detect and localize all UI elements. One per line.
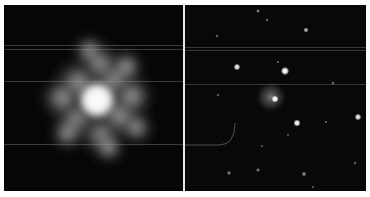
star (293, 119, 300, 126)
arc-artifact (185, 123, 235, 145)
star (260, 144, 263, 147)
star (287, 134, 290, 137)
star (256, 168, 260, 172)
right-image-panel-star-field (185, 5, 366, 191)
star (303, 27, 308, 32)
star (355, 114, 362, 121)
star (234, 64, 241, 71)
star-field (185, 5, 366, 191)
star (311, 185, 314, 188)
star (265, 18, 268, 21)
star (216, 93, 219, 96)
star (281, 67, 289, 75)
star (324, 120, 327, 123)
star (227, 171, 231, 175)
star (302, 172, 307, 177)
star (215, 34, 218, 37)
star (276, 60, 279, 63)
nebulous-halo (255, 81, 287, 113)
star (271, 95, 278, 102)
star (256, 9, 260, 13)
bright-star-glow (4, 5, 183, 191)
left-image-panel-bright-star (4, 5, 183, 191)
star (353, 161, 357, 165)
